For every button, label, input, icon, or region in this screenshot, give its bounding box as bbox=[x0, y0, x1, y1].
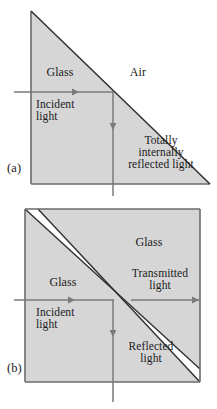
incident-light-label-line-2: light bbox=[36, 318, 74, 330]
panel-a-incident-light-label: Incident light bbox=[36, 98, 74, 122]
incident-light-label-line-1: Incident bbox=[36, 98, 74, 110]
figure-canvas bbox=[0, 0, 217, 409]
incident-light-label-line-1: Incident bbox=[36, 306, 74, 318]
panel-a-air-region-label: Air bbox=[130, 66, 146, 79]
panel-b-id-label: (b) bbox=[7, 362, 22, 375]
reflected-light-label-line-2: light bbox=[129, 352, 174, 364]
transmitted-light-label-line-2: light bbox=[132, 279, 188, 291]
tir-label-line-1: Totally bbox=[128, 134, 194, 146]
panel-a-totally-internally-reflected-light-label: Totally internally reflected light bbox=[128, 134, 194, 170]
reflected-light-label-line-1: Reflected bbox=[129, 340, 174, 352]
panel-b-reflected-light-label: Reflected light bbox=[129, 340, 174, 364]
incident-light-label-line-2: light bbox=[36, 110, 74, 122]
transmitted-light-label-line-1: Transmitted bbox=[132, 267, 188, 279]
panel-b-glass-lower-region-label: Glass bbox=[49, 276, 76, 289]
panel-b-transmitted-light-label: Transmitted light bbox=[132, 267, 188, 291]
tir-label-line-2: internally bbox=[128, 146, 194, 158]
panel-b-glass-upper-region-label: Glass bbox=[135, 236, 162, 249]
panel-a-id-label: (a) bbox=[7, 162, 21, 175]
panel-a-glass-region-label: Glass bbox=[46, 66, 73, 79]
panel-b-incident-light-label: Incident light bbox=[36, 306, 74, 330]
tir-label-line-3: reflected light bbox=[128, 158, 194, 170]
optics-figure: (a) Glass Air Incident light Totally int… bbox=[0, 0, 217, 409]
